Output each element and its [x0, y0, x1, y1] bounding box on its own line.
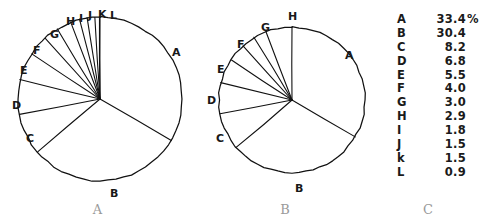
- panel-b-caption: B: [195, 202, 375, 217]
- pie-slice-divider: [292, 100, 355, 137]
- legend-row: D6.8: [397, 54, 479, 68]
- pie-slice-divider: [99, 17, 100, 99]
- legend-value: 2.9: [414, 109, 466, 123]
- pie-rim-label-h: H: [288, 11, 297, 22]
- panel-pie-a: ABCDEFGHIJKL A: [0, 0, 195, 223]
- pie-rim-label-a: A: [345, 50, 354, 61]
- pie-rim-label-a: A: [172, 47, 181, 58]
- legend-key: A: [397, 12, 414, 26]
- legend-row: A33.4%: [397, 12, 479, 26]
- legend-key: H: [397, 109, 414, 123]
- pie-slice-divider: [20, 79, 100, 99]
- legend-row: k1.5: [397, 151, 479, 165]
- legend-value: 4.0: [414, 81, 466, 95]
- legend-key: L: [397, 165, 414, 179]
- legend-table: A33.4%B30.4C8.2D6.8E5.5F4.0G3.0H2.9I1.8J…: [397, 12, 479, 179]
- legend-row: I1.8: [397, 123, 479, 137]
- pie-rim-label-k: K: [98, 9, 107, 20]
- legend-value: 30.4: [414, 26, 466, 40]
- legend-value: 5.5: [414, 68, 466, 82]
- legend-value: 33.4: [414, 12, 466, 26]
- pie-rim-label-g: G: [50, 29, 59, 40]
- pie-slice-divider: [19, 99, 100, 114]
- pie-rim-label-f: F: [33, 45, 41, 56]
- legend-value: 1.5: [414, 137, 466, 151]
- pie-rim-label-g: G: [261, 22, 270, 33]
- legend-value: 8.2: [414, 40, 466, 54]
- pie-slice-divider: [38, 99, 100, 152]
- pie-rim-label-c: C: [26, 133, 34, 144]
- pie-slice-divider: [266, 32, 292, 100]
- legend-row: F4.0: [397, 81, 479, 95]
- legend-row: L0.9: [397, 165, 479, 179]
- legend-key: F: [397, 81, 414, 95]
- legend-key: I: [397, 123, 414, 137]
- legend-key: D: [397, 54, 414, 68]
- panel-pie-b: ABCDEFGH B: [195, 0, 375, 223]
- legend-row: G3.0: [397, 95, 479, 109]
- pie-rim-label-f: F: [237, 39, 245, 50]
- pie-b-drawing: [195, 0, 375, 200]
- pie-rim-label-j: J: [88, 10, 92, 21]
- pie-a-drawing: [0, 0, 195, 200]
- legend-key: G: [397, 95, 414, 109]
- legend-row: C8.2: [397, 40, 479, 54]
- pie-rim-label-e: E: [217, 64, 225, 75]
- pie-slice-divider: [254, 37, 292, 100]
- pie-rim-label-h: H: [66, 16, 75, 27]
- pie-slice-divider: [220, 100, 292, 114]
- legend-key: E: [397, 68, 414, 82]
- pie-rim-label-b: B: [295, 183, 303, 194]
- pie-rim-label-d: D: [12, 100, 21, 111]
- legend-row: B30.4: [397, 26, 479, 40]
- pie-rim-label-b: B: [110, 188, 118, 199]
- legend-row: E5.5: [397, 68, 479, 82]
- legend-row: J1.5: [397, 137, 479, 151]
- legend-key: C: [397, 40, 414, 54]
- pie-chart-figure: ABCDEFGHIJKL A ABCDEFGH B A33.4%B30.4C8.…: [0, 0, 481, 223]
- legend-row: H2.9: [397, 109, 479, 123]
- legend-value: 3.0: [414, 95, 466, 109]
- panel-legend-c: A33.4%B30.4C8.2D6.8E5.5F4.0G3.0H2.9I1.8J…: [375, 0, 481, 223]
- legend-value: 6.8: [414, 54, 466, 68]
- legend-value: 1.8: [414, 123, 466, 137]
- legend-key: k: [397, 151, 414, 165]
- pie-rim-label-e: E: [20, 65, 28, 76]
- pie-rim-label-c: C: [216, 133, 224, 144]
- legend-value: 0.9: [414, 165, 466, 179]
- pie-slice-divider: [236, 100, 292, 147]
- legend-key: J: [397, 137, 414, 151]
- pie-slice-divider: [100, 99, 171, 141]
- pie-slice-divider: [221, 83, 292, 100]
- pie-rim-label-d: D: [207, 95, 216, 106]
- legend-value: 1.5: [414, 151, 466, 165]
- legend-key: B: [397, 26, 414, 40]
- legend-percent-sign: %: [466, 12, 479, 26]
- panel-c-caption: C: [375, 202, 481, 217]
- pie-slice-divider: [57, 29, 100, 99]
- pie-rim-label-i: I: [79, 13, 83, 24]
- pie-rim-label-l: L: [110, 10, 117, 21]
- panel-a-caption: A: [0, 202, 195, 217]
